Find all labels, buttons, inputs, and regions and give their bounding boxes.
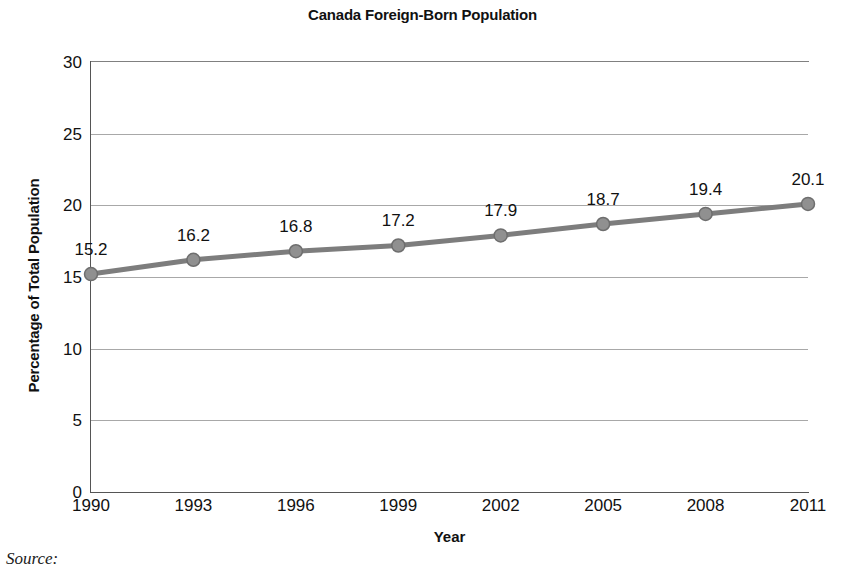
source-note: Source:	[6, 549, 58, 569]
y-tick-label-20: 20	[38, 197, 82, 214]
x-tick-label-1996: 1996	[246, 497, 346, 514]
data-point-label-1999: 17.2	[358, 212, 438, 229]
data-point-label-1996: 16.8	[256, 218, 336, 235]
gridline-10	[91, 349, 808, 350]
x-tick-label-1999: 1999	[348, 497, 448, 514]
y-tick-label-30: 30	[38, 54, 82, 71]
data-point-label-1993: 16.2	[153, 227, 233, 244]
y-tick-label-5: 5	[38, 412, 82, 429]
gridline-5	[91, 420, 808, 421]
chart-title: Canada Foreign-Born Population	[0, 6, 845, 23]
x-tick-label-2002: 2002	[451, 497, 551, 514]
x-axis-line	[90, 492, 809, 493]
data-point-label-1990: 15.2	[51, 241, 131, 258]
chart-figure: Canada Foreign-Born Population Percentag…	[0, 0, 845, 575]
gridline-20	[91, 205, 808, 206]
data-point-label-2002: 17.9	[461, 202, 541, 219]
x-tick-label-1993: 1993	[143, 497, 243, 514]
y-axis-tick-labels: 051015202530	[28, 0, 82, 575]
x-tick-label-2008: 2008	[656, 497, 756, 514]
axis-top-line	[90, 61, 809, 62]
y-axis-line	[90, 61, 91, 493]
y-tick-label-10: 10	[38, 341, 82, 358]
x-tick-label-1990: 1990	[41, 497, 141, 514]
gridline-25	[91, 134, 808, 135]
x-tick-label-2005: 2005	[553, 497, 653, 514]
data-point-label-2008: 19.4	[666, 181, 746, 198]
data-point-label-2011: 20.1	[768, 171, 845, 188]
data-point-label-2005: 18.7	[563, 191, 643, 208]
x-tick-label-2011: 2011	[758, 497, 845, 514]
gridline-15	[91, 277, 808, 278]
y-tick-label-25: 25	[38, 126, 82, 143]
y-tick-label-15: 15	[38, 269, 82, 286]
x-axis-title: Year	[91, 528, 808, 545]
